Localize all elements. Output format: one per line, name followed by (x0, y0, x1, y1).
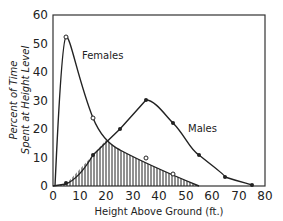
males-label: Males (188, 123, 217, 134)
chart: Females Males 0 10 20 30 40 50 60 0 10 2… (0, 0, 283, 221)
svg-text:10: 10 (33, 151, 48, 165)
plot-frame (53, 15, 265, 186)
females-label: Females (82, 50, 123, 61)
x-axis-label: Height Above Ground (ft.) (95, 206, 224, 217)
svg-text:30: 30 (125, 189, 140, 203)
y-axis-label-line1: Percent of Time (8, 61, 19, 140)
svg-text:30: 30 (33, 94, 48, 108)
svg-text:40: 40 (33, 65, 48, 79)
y-tick-labels: 0 10 20 30 40 50 60 (33, 8, 48, 193)
x-tick-labels: 0 10 20 30 40 50 60 70 80 (49, 189, 272, 203)
svg-text:20: 20 (33, 122, 48, 136)
svg-text:60: 60 (33, 8, 48, 22)
svg-text:20: 20 (98, 189, 113, 203)
svg-text:10: 10 (72, 189, 87, 203)
svg-text:0: 0 (40, 179, 48, 193)
svg-text:50: 50 (178, 189, 193, 203)
svg-text:80: 80 (257, 189, 272, 203)
svg-text:50: 50 (33, 37, 48, 51)
svg-text:60: 60 (204, 189, 219, 203)
y-axis-label-line2: Spent at Height Level (20, 46, 31, 155)
svg-text:0: 0 (49, 189, 57, 203)
svg-text:40: 40 (151, 189, 166, 203)
svg-text:70: 70 (231, 189, 246, 203)
